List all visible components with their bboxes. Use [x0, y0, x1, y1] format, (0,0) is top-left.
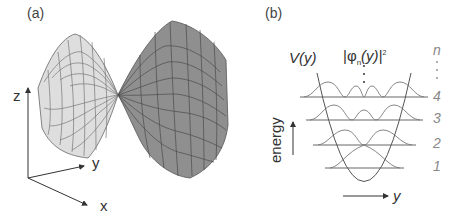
ellipsis-dots-center: [363, 65, 365, 83]
y-axis-label-a: y: [92, 155, 100, 170]
wavefunction-label: |φn(y)|2: [343, 48, 386, 67]
potential-label: V(y): [289, 50, 317, 65]
panel-a-label: (a): [27, 6, 44, 20]
wavefunction-label-base: |φ: [343, 47, 357, 64]
potential-curve: [317, 73, 411, 182]
panel-b-label: (b): [265, 6, 282, 20]
level-number-3: 3: [433, 111, 441, 125]
level-number-4: 4: [433, 89, 441, 103]
z-axis-label: z: [13, 88, 21, 103]
saddle-right-lobe: [118, 21, 228, 178]
level-number-1: 1: [433, 159, 441, 173]
figure: (a) z y x (b) V(y) |φn(y)|2 n 4 3 2 1 en…: [0, 0, 456, 221]
wavefunction-label-sup: 2: [382, 49, 386, 56]
quantum-number-label: n: [433, 43, 441, 57]
energy-level-diagram: [293, 61, 438, 196]
energy-label: energy: [268, 117, 283, 163]
x-axis-label: x: [100, 198, 108, 213]
y-axis-label-b: y: [393, 188, 401, 203]
figure-graphics: [0, 0, 456, 221]
level-number-2: 2: [433, 136, 441, 150]
y-axis-arrow: [28, 166, 84, 178]
x-axis-arrow: [28, 178, 87, 205]
saddle-surface: [38, 21, 228, 178]
ellipsis-dots-n: [436, 61, 438, 79]
wavefunction-label-rest: (y)|: [361, 47, 382, 64]
